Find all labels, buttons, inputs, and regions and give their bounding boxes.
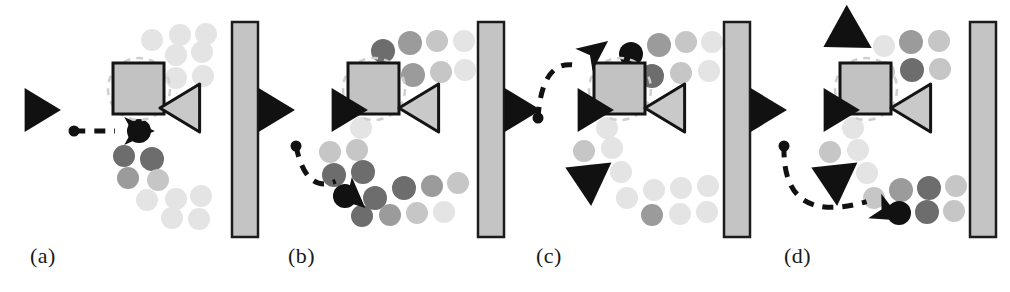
particle-dot-c-8	[573, 140, 595, 162]
particle-dot-a-0	[127, 119, 151, 143]
particle-dot-a-12	[165, 67, 187, 89]
particle-dot-d-7	[819, 141, 841, 163]
particle-dot-b-10	[322, 163, 346, 187]
particle-dot-b-1	[398, 31, 422, 55]
particle-dot-c-1	[647, 33, 671, 57]
goal-triangle-d	[891, 84, 931, 132]
particle-dot-d-9	[827, 165, 849, 187]
wall-c	[724, 22, 750, 237]
particle-dot-b-20	[433, 201, 455, 223]
particle-dot-d-17	[943, 200, 965, 222]
particle-dot-d-10	[856, 162, 878, 184]
particle-dot-b-14	[392, 176, 416, 200]
agent-triangle-c	[505, 88, 541, 132]
particle-dot-b-17	[351, 205, 373, 227]
figure-canvas: (a)(b)(c)(d)	[0, 0, 1010, 292]
motion-arrow-origin-dot-b	[291, 141, 302, 152]
particle-dot-b-5	[430, 61, 452, 83]
particle-dot-c-7	[596, 117, 618, 139]
particle-dot-c-9	[601, 137, 623, 159]
goal-triangle-c	[645, 84, 685, 132]
particle-dot-c-3	[701, 31, 723, 53]
obstacle-square-b	[348, 63, 399, 114]
particle-dot-a-6	[165, 188, 187, 210]
particle-dot-c-12	[616, 187, 638, 209]
motion-arrow-path-d	[784, 146, 867, 207]
particle-dot-a-10	[165, 44, 187, 66]
particle-dot-a-4	[147, 169, 169, 191]
particle-dot-d-0	[873, 35, 895, 57]
particle-dot-a-2	[140, 147, 164, 171]
particle-dot-d-16	[915, 200, 939, 224]
particle-dot-b-9	[346, 139, 368, 161]
particle-dot-b-0	[371, 39, 395, 63]
panel-label-d: (d)	[784, 243, 811, 269]
obstacle-ghost-ring-c	[589, 58, 651, 120]
particle-dot-b-16	[447, 172, 469, 194]
motion-arrow-b	[291, 141, 375, 219]
obstacle-square-a	[113, 63, 164, 114]
particle-dot-c-16	[641, 204, 663, 226]
figure-vector-layer	[0, 0, 1010, 292]
particle-dot-d-4	[900, 58, 924, 82]
particle-dot-b-12	[333, 184, 357, 208]
secondary-agent-triangle-d	[824, 88, 860, 132]
particle-dot-a-9	[188, 208, 210, 230]
particle-dot-b-11	[351, 160, 375, 184]
particle-dot-c-5	[670, 62, 692, 84]
particle-dot-a-11	[191, 41, 213, 63]
obstacle-ghost-ring-b	[343, 58, 405, 120]
lower-agent-triangle-d	[801, 146, 857, 206]
particle-dot-d-1	[899, 30, 923, 54]
motion-arrow-path-c	[538, 65, 577, 118]
particle-dot-b-18	[379, 204, 401, 226]
secondary-agent-triangle-b	[332, 88, 368, 132]
particle-dot-c-17	[669, 203, 691, 225]
particle-dot-a-15	[169, 24, 191, 46]
particle-dot-c-6	[698, 60, 720, 82]
motion-arrow-d	[779, 141, 909, 233]
motion-arrow-head-b	[333, 177, 374, 218]
motion-arrow-path-b	[296, 146, 336, 184]
particle-dot-b-6	[454, 59, 476, 81]
obstacle-ghost-ring-a	[108, 58, 170, 120]
motion-arrow-c	[533, 30, 617, 123]
particle-dot-d-11	[863, 187, 885, 209]
motion-arrow-a	[69, 117, 155, 145]
particle-dot-b-7	[350, 117, 372, 139]
particle-dot-b-13	[363, 186, 387, 210]
wall-a	[232, 22, 258, 237]
particle-dot-b-3	[453, 30, 475, 52]
particle-dot-c-14	[670, 177, 692, 199]
agent-triangle-d	[751, 88, 787, 132]
obstacle-square-d	[840, 63, 891, 114]
particle-dot-a-16	[195, 23, 217, 45]
panel-label-a: (a)	[30, 243, 56, 269]
panel-label-c: (c)	[536, 243, 562, 269]
particle-dot-c-11	[610, 161, 632, 183]
particle-dot-d-15	[887, 201, 911, 225]
obstacle-ghost-ring-d	[835, 58, 897, 120]
particle-dot-a-14	[141, 29, 163, 51]
agent-triangle-a	[25, 88, 61, 132]
particle-dot-b-4	[401, 63, 425, 87]
particle-dot-c-4	[640, 64, 664, 88]
particle-dot-d-5	[929, 58, 951, 80]
lower-agent-triangle-c	[555, 146, 611, 206]
particle-dot-c-0	[619, 42, 643, 66]
particle-dot-a-3	[117, 167, 139, 189]
wall-d	[970, 22, 996, 237]
particle-dot-c-2	[675, 31, 697, 53]
particle-dot-d-6	[842, 117, 864, 139]
particle-dot-d-3	[873, 61, 895, 83]
panel-label-b: (b)	[288, 243, 315, 269]
particle-dot-b-19	[406, 202, 428, 224]
particle-dot-a-5	[136, 189, 158, 211]
particle-dot-d-8	[847, 139, 869, 161]
secondary-agent-triangle-c	[578, 88, 614, 132]
motion-arrow-origin-dot-c	[533, 113, 544, 124]
particle-dot-c-15	[697, 175, 719, 197]
particle-dot-c-13	[643, 179, 665, 201]
motion-arrow-head-d	[868, 194, 908, 233]
particle-dot-a-1	[113, 145, 135, 167]
